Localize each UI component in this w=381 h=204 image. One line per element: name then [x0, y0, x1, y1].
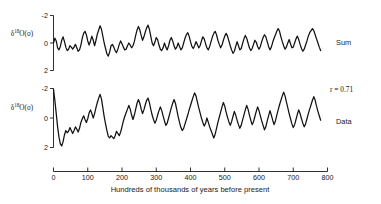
upper-panel: -2 0 2 δ18O(σ) Sum: [11, 11, 351, 75]
upper-y-axis-label: δ18O(σ): [11, 28, 34, 38]
x-tick-label: 0: [52, 173, 56, 182]
x-tick-label: 200: [116, 173, 128, 182]
lower-panel: -2 0 2 δ18O(σ) Data: [11, 84, 353, 152]
figure-root: -2 0 2 δ18O(σ) Sum -2 0 2 δ18O(σ) Data r…: [0, 0, 381, 204]
correlation-annotation: r = 0.71: [330, 85, 354, 94]
x-tick-labels: 0100200300400500600700800: [52, 173, 334, 182]
upper-ytick-label-0: -2: [42, 11, 48, 20]
sum-series-label: Sum: [336, 38, 351, 47]
x-axis-caption: Hundreds of thousands of years before pr…: [111, 185, 271, 194]
x-tick-label: 400: [185, 173, 197, 182]
x-tick-marks: [54, 168, 328, 172]
x-tick-label: 800: [322, 173, 334, 182]
lower-ytick-label-1: 0: [44, 114, 48, 123]
data-series-label: Data: [336, 117, 353, 126]
sum-series-line: [54, 25, 321, 56]
lower-ytick-label-0: -2: [42, 84, 48, 93]
lower-ytick-label-2: 2: [44, 143, 48, 152]
x-tick-label: 100: [82, 173, 94, 182]
x-tick-label: 700: [287, 173, 299, 182]
upper-ytick-label-2: 2: [44, 66, 48, 75]
x-tick-label: 600: [253, 173, 265, 182]
lower-y-ticks: [50, 89, 54, 148]
x-tick-label: 300: [150, 173, 162, 182]
lower-y-axis-label: δ18O(σ): [11, 102, 34, 112]
data-series-line: [54, 89, 321, 146]
upper-ytick-label-1: 0: [44, 39, 48, 48]
x-tick-label: 500: [219, 173, 231, 182]
x-axis: 0100200300400500600700800: [52, 168, 334, 183]
